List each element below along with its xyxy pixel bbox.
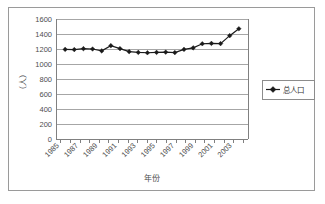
y-tick-label: 0 [48, 135, 52, 144]
diamond-marker-icon [200, 41, 205, 46]
x-tick-label: 1999 [177, 141, 195, 159]
y-tick-label: 1600 [35, 15, 52, 24]
y-tick-label: 1000 [35, 60, 52, 69]
x-tick-label: 1995 [139, 141, 157, 159]
line-chart: 1600 1400 1200 1000 800 600 400 200 0 19… [0, 0, 325, 204]
x-tick-label: 2003 [216, 141, 234, 159]
diamond-marker-icon [182, 47, 187, 52]
x-tick-label: 1993 [120, 141, 138, 159]
diamond-marker-icon [81, 46, 86, 51]
x-tick-labels: 1985 1987 1989 1991 1993 1995 1997 1999 … [43, 141, 234, 159]
x-tick-label: 1989 [81, 141, 99, 159]
diamond-marker-icon [163, 50, 168, 55]
diamond-marker-icon [136, 50, 141, 55]
y-tick-label: 400 [39, 105, 52, 114]
diamond-marker-icon [154, 50, 159, 55]
diamond-marker-icon [118, 46, 123, 51]
y-axis-title: （人） [19, 70, 28, 94]
y-tick-label: 200 [39, 120, 52, 129]
series-total-population [63, 26, 241, 55]
y-tick-labels: 1600 1400 1200 1000 800 600 400 200 0 [35, 15, 52, 144]
chart-canvas: 1600 1400 1200 1000 800 600 400 200 0 19… [0, 0, 325, 204]
legend-label: 总人口 [283, 85, 304, 95]
chart-legend[interactable]: 总人口 [262, 80, 314, 99]
y-tick-label: 600 [39, 90, 52, 99]
x-tick-label: 1991 [100, 141, 118, 159]
diamond-marker-icon [209, 41, 214, 46]
diamond-marker-icon [145, 50, 150, 55]
x-axis-title: 年份 [144, 173, 160, 183]
x-tick-label: 1997 [158, 141, 176, 159]
x-tick-label: 2001 [196, 141, 214, 159]
diamond-marker-icon [72, 47, 77, 52]
gridlines [56, 19, 248, 124]
diamond-marker-icon [127, 49, 132, 54]
x-tick-marks [61, 139, 243, 143]
diamond-marker-icon [173, 50, 178, 55]
y-tick-label: 1200 [35, 45, 52, 54]
x-tick-label: 1985 [43, 141, 61, 159]
y-tick-label: 800 [39, 75, 52, 84]
diamond-marker-icon [63, 47, 68, 52]
diamond-marker-icon [90, 47, 95, 52]
y-tick-label: 1400 [35, 30, 52, 39]
x-tick-label: 1987 [62, 141, 80, 159]
